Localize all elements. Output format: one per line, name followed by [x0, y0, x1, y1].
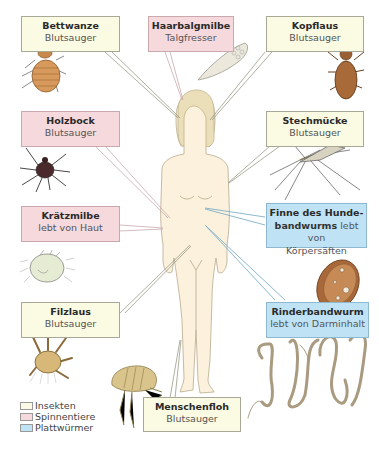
parasite-role: Blutsauger	[22, 318, 119, 330]
pointer-kraetzmilbe	[120, 225, 163, 231]
parasite-role: Blutsauger	[267, 127, 363, 139]
head-louse-illustration	[328, 48, 364, 99]
parasite-diagram: Bettwanze Blutsauger Haarbalgmilbe Talgf…	[0, 0, 379, 450]
label-filzlaus: Filzlaus Blutsauger	[21, 302, 120, 338]
label-bettwanze: Bettwanze Blutsauger	[21, 16, 120, 52]
parasite-name: Krätzmilbe	[22, 210, 119, 222]
legend-label: Spinnentiere	[35, 411, 95, 422]
parasite-name-line1: Finne des Hunde-	[267, 207, 366, 220]
label-menschenfloh: Menschenfloh Blutsauger	[143, 397, 241, 432]
crab-louse-illustration	[30, 333, 72, 384]
legend-swatch	[20, 413, 33, 421]
pointer-haarbalgmilbe	[165, 52, 183, 100]
pointer-stechmuecke	[228, 146, 280, 183]
parasite-role: Blutsauger	[267, 32, 363, 44]
label-kraetzmilbe: Krätzmilbe lebt von Haut	[21, 206, 120, 242]
legend-swatch	[20, 402, 33, 410]
parasite-name: Filzlaus	[22, 306, 119, 318]
label-kopflaus: Kopflaus Blutsauger	[266, 16, 364, 52]
bedbug-illustration	[22, 48, 66, 92]
legend-label: Insekten	[35, 400, 76, 411]
parasite-name: Kopflaus	[267, 20, 363, 32]
label-haarbalgmilbe: Haarbalgmilbe Talgfresser	[148, 16, 234, 52]
parasite-role: lebt von Darminhalt	[267, 318, 368, 330]
parasite-name-line2: bandwurms	[275, 220, 338, 231]
human-figure	[161, 90, 230, 393]
legend-item-plattwuermer: Plattwürmer	[20, 422, 95, 433]
parasite-name: Bettwanze	[22, 20, 119, 32]
legend: Insekten Spinnentiere Plattwürmer	[20, 400, 95, 433]
parasite-name: Stechmücke	[267, 115, 363, 127]
parasite-name: Haarbalgmilbe	[149, 20, 233, 32]
label-rinderbandwurm: Rinderbandwurm lebt von Darminhalt	[266, 302, 369, 338]
parasite-role: Talgfresser	[149, 32, 233, 44]
parasite-role: Blutsauger	[22, 32, 119, 44]
mosquito-illustration	[270, 140, 360, 200]
parasite-role-line3: Körpersäften	[267, 245, 366, 258]
legend-item-insekten: Insekten	[20, 400, 95, 411]
label-holzbock: Holzbock Blutsauger	[21, 111, 120, 147]
tick-illustration	[20, 148, 70, 192]
parasite-name: Menschenfloh	[144, 401, 240, 413]
label-stechmuecke: Stechmücke Blutsauger	[266, 111, 364, 147]
parasite-role: lebt von Haut	[22, 222, 119, 234]
pointer-menschenfloh	[170, 340, 181, 398]
scabies-mite-illustration	[20, 250, 75, 282]
parasite-role: Blutsauger	[144, 413, 240, 425]
tapeworm-illustration	[248, 334, 366, 418]
legend-label: Plattwürmer	[35, 422, 93, 433]
parasite-name: Rinderbandwurm	[267, 306, 368, 318]
parasite-role: Blutsauger	[22, 127, 119, 139]
legend-swatch	[20, 424, 33, 432]
legend-item-spinnentiere: Spinnentiere	[20, 411, 95, 422]
parasite-name: Holzbock	[22, 115, 119, 127]
label-finne-hundebandwurm: Finne des Hunde- bandwurms lebt von Körp…	[266, 203, 367, 248]
